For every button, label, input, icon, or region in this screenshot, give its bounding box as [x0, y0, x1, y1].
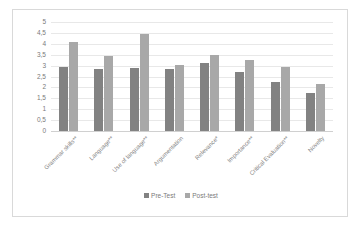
legend-item-pre-test[interactable]: Pre-Test	[144, 192, 175, 199]
bar-pre-test	[306, 93, 315, 131]
bar-group	[122, 22, 157, 131]
y-axis-tick-label: 2,5	[37, 73, 46, 80]
x-axis-tick-label: Grammar skills**	[43, 135, 80, 172]
y-axis-tick-label: 3,5	[37, 51, 46, 58]
x-axis-tick-label: Novelty	[307, 135, 326, 154]
bar-post-test	[245, 60, 254, 132]
bar-post-test	[175, 65, 184, 131]
bar-group	[192, 22, 227, 131]
x-axis-tick-label: Critical Evaluation**	[249, 135, 291, 177]
x-axis-tick-label: Argumentation	[153, 135, 186, 168]
bar-group	[157, 22, 192, 131]
y-axis-tick-label: 0	[42, 128, 46, 135]
bar-post-test	[316, 84, 325, 131]
bar-chart-figure: 54,543,532,521,510,50 Grammar skills**La…	[12, 9, 348, 217]
bar-post-test	[69, 42, 78, 131]
bar-post-test	[140, 34, 149, 131]
legend-label: Pre-Test	[151, 192, 175, 199]
bar-post-test	[281, 67, 290, 131]
legend-swatch-icon	[144, 193, 149, 198]
bar-group	[86, 22, 121, 131]
y-axis-tick-label: 2	[42, 84, 46, 91]
bar-group	[263, 22, 298, 131]
y-axis: 54,543,532,521,510,50	[13, 22, 49, 131]
bars-layer	[51, 22, 333, 131]
y-axis-tick-label: 0,5	[37, 117, 46, 124]
legend-swatch-icon	[185, 193, 190, 198]
x-axis-tick-label: Language**	[88, 135, 115, 162]
bar-pre-test	[130, 68, 139, 131]
bar-group	[298, 22, 333, 131]
gridline	[51, 131, 333, 132]
plot-area	[51, 22, 333, 131]
x-axis-tick-label: Relevance*	[194, 135, 221, 162]
y-axis-tick-label: 1,5	[37, 95, 46, 102]
x-axis: Grammar skills**Language**Use of languag…	[51, 133, 333, 191]
bar-pre-test	[271, 82, 280, 131]
bar-group	[51, 22, 86, 131]
bar-pre-test	[235, 72, 244, 131]
y-axis-tick-label: 5	[42, 19, 46, 26]
y-axis-tick-label: 4,5	[37, 30, 46, 37]
bar-pre-test	[200, 63, 209, 131]
y-axis-tick-label: 1	[42, 106, 46, 113]
y-axis-tick-label: 3	[42, 62, 46, 69]
x-axis-tick-label: Use of language**	[111, 135, 150, 174]
bar-pre-test	[165, 69, 174, 131]
bar-post-test	[104, 56, 113, 131]
legend-label: Post-test	[192, 192, 218, 199]
x-axis-tick-label: Importance**	[226, 135, 255, 164]
bar-group	[227, 22, 262, 131]
bar-pre-test	[94, 69, 103, 131]
bar-post-test	[210, 55, 219, 131]
bar-pre-test	[59, 67, 68, 131]
legend-item-post-test[interactable]: Post-test	[185, 192, 218, 199]
y-axis-tick-label: 4	[42, 41, 46, 48]
chart-legend: Pre-TestPost-test	[13, 192, 349, 199]
